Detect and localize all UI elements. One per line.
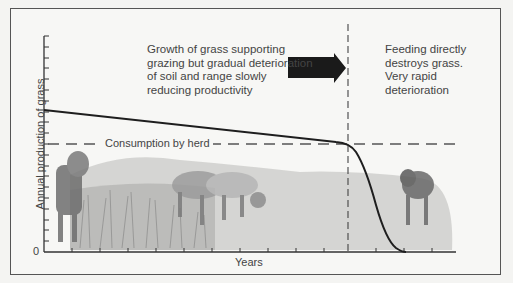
- note-line: reducing productivity: [147, 84, 313, 98]
- note-line: Feeding directly: [385, 43, 466, 57]
- y-zero-label: 0: [33, 245, 39, 257]
- note-line: Growth of grass supporting: [147, 43, 313, 57]
- note-line: deterioration: [385, 84, 466, 98]
- note-line: Very rapid: [385, 70, 466, 84]
- left-phase-note: Growth of grass supporting grazing but g…: [147, 43, 313, 97]
- note-line: grazing but gradual deterioration: [147, 57, 313, 71]
- consumption-label: Consumption by herd: [102, 137, 213, 149]
- y-axis-label: Annual production of grass: [34, 64, 46, 224]
- right-phase-note: Feeding directly destroys grass. Very ra…: [385, 43, 466, 97]
- x-axis-label: Years: [235, 256, 263, 268]
- note-line: of soil and range slowly: [147, 70, 313, 84]
- note-line: destroys grass.: [385, 57, 466, 71]
